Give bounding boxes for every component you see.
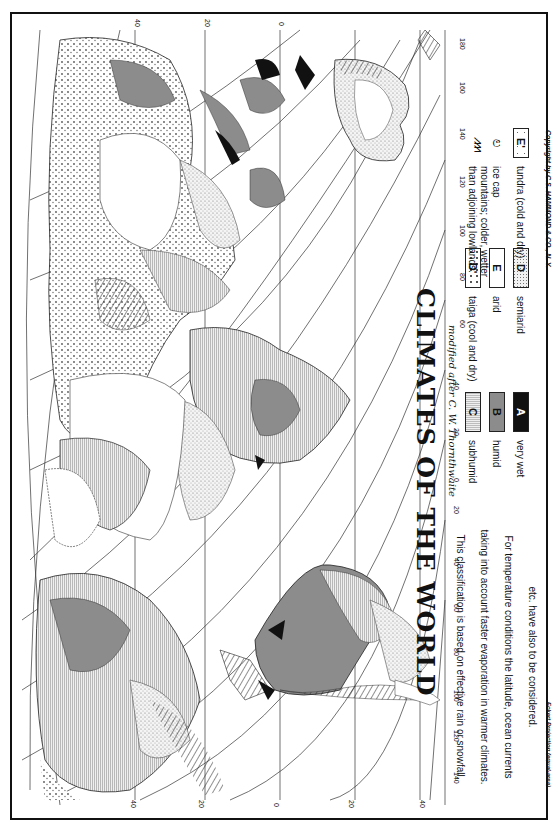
- legend-item-subhumid: C subhumid: [462, 392, 484, 483]
- description-line: etc. have also to be considered.: [520, 522, 544, 792]
- legend-label: semiarid: [516, 296, 527, 334]
- lat-label-bottom-40n: 40: [130, 800, 137, 808]
- legend-item-humid: B humid: [486, 392, 508, 467]
- description-block: This classification is based on effectiv…: [448, 522, 472, 792]
- very-wet-swatch: A: [513, 392, 529, 432]
- ice-cap-icon: ಲ: [489, 128, 505, 158]
- legend-label: ice cap: [492, 166, 503, 198]
- description-line: For temperature conditions the latitude,…: [496, 522, 520, 792]
- lon-label: 120: [459, 176, 466, 188]
- legend-group-1b: B humid: [486, 392, 508, 467]
- description-line: taking into account faster evaporation i…: [472, 522, 496, 792]
- tundra-swatch: E': [513, 128, 529, 158]
- description-line: This classification is based on effectiv…: [448, 522, 472, 792]
- lat-label-top-0: 0: [278, 22, 285, 26]
- lon-label: 180: [459, 38, 466, 50]
- legend-item-mountains: ⩘⩘⩘ mountains; colder, wetter than adjoi…: [466, 128, 490, 288]
- australia: [334, 59, 409, 161]
- lon-label: 160: [459, 82, 466, 94]
- subhumid-swatch: C: [465, 392, 481, 432]
- legend-group-1: A very wet: [510, 392, 532, 477]
- legend-label: mountains; colder, wetter than adjoining…: [466, 166, 490, 286]
- copyright-text: Copyright by C.S. HAMMOND & CO., N. Y.: [545, 130, 552, 268]
- lat-label-bottom-20s: 20: [348, 800, 355, 808]
- lon-label: 20: [453, 506, 460, 514]
- legend-label: tundra (cold and dry): [516, 166, 527, 258]
- lat-label-bottom-20n: 20: [198, 800, 205, 808]
- legend-group-1c: C subhumid: [462, 392, 484, 483]
- lat-label-bottom-40s: 40: [419, 800, 426, 808]
- lat-label-top-20: 20: [204, 19, 211, 27]
- lon-label: 100: [459, 225, 466, 237]
- legend-label: taiga (cool and dry): [468, 296, 479, 382]
- lat-label-top-40: 40: [134, 19, 141, 27]
- legend-item-very-wet: A very wet: [510, 392, 532, 477]
- humid-swatch: B: [489, 392, 505, 432]
- legend-item-semiarid: D semiarid: [510, 248, 532, 334]
- north-america: [36, 573, 225, 800]
- legend-label: very wet: [516, 440, 527, 477]
- lon-label: 140: [459, 128, 466, 140]
- legend-item-tundra: E' tundra (cold and dry): [510, 128, 532, 258]
- projection-note: Eckert Projection (equal-area): [546, 702, 552, 787]
- legend-label: arid: [492, 296, 503, 313]
- map-subtitle: modified after C. W. Thornthwaite: [447, 325, 458, 497]
- description-block: For temperature conditions the latitude,…: [496, 522, 520, 792]
- description-block: etc. have also to be considered.: [520, 522, 544, 792]
- arid-swatch: E: [489, 248, 505, 288]
- southeast-asia: [240, 55, 315, 208]
- lat-label-bottom-0: 0: [273, 803, 280, 807]
- new-zealand: [418, 30, 440, 60]
- map-title: CLIMATES OF THE WORLD: [411, 288, 440, 696]
- description-block: taking into account faster evaporation i…: [472, 522, 496, 792]
- legend-label: humid: [492, 440, 503, 467]
- legend-label: subhumid: [468, 440, 479, 483]
- mountains-icon: ⩘⩘⩘: [470, 128, 486, 158]
